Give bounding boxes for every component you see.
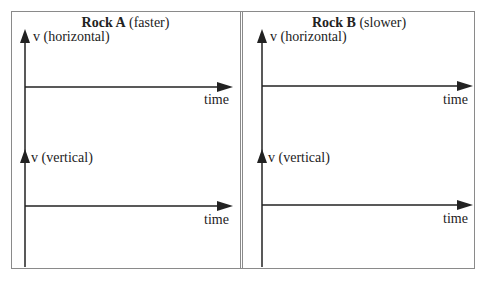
axes-drawing xyxy=(11,11,240,269)
x-axis-arrow-icon xyxy=(217,82,233,92)
y-label-horizontal: v (horizontal) xyxy=(33,29,110,45)
axes-drawing xyxy=(243,11,475,269)
y-axis-arrow-icon xyxy=(20,29,30,43)
y-label-vertical: v (vertical) xyxy=(268,150,330,166)
y-axis-arrow-icon xyxy=(257,149,267,163)
y-axis-arrow-icon xyxy=(257,29,267,43)
panel-rock-a: Rock A (faster) v (horizontal) time v (v… xyxy=(11,11,240,269)
x-label-time: time xyxy=(443,92,468,108)
x-label-time: time xyxy=(204,92,229,108)
x-axis-arrow-icon xyxy=(457,200,473,210)
y-label-horizontal: v (horizontal) xyxy=(270,29,347,45)
x-axis-arrow-icon xyxy=(217,201,233,211)
x-label-time: time xyxy=(443,211,468,227)
panel-rock-b: Rock B (slower) v (horizontal) time v (v… xyxy=(243,11,475,269)
x-axis-arrow-icon xyxy=(457,81,473,91)
y-axis-arrow-icon xyxy=(20,149,30,163)
x-label-time: time xyxy=(204,212,229,228)
y-label-vertical: v (vertical) xyxy=(31,150,93,166)
